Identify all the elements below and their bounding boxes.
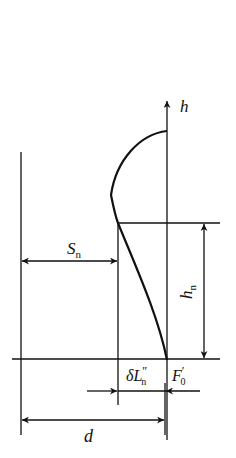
h-n-label: hn (177, 285, 198, 300)
d-label: d (84, 426, 94, 446)
f0-label: F′0 (171, 364, 185, 387)
optics-diagram: h Sn hn δL″n F′0 d (0, 0, 236, 458)
h-axis-label: h (180, 97, 189, 116)
delta-l-label: δL″n (126, 364, 147, 387)
s-n-label: Sn (67, 239, 82, 260)
aberration-curve (111, 131, 167, 360)
svg-text:hn: hn (177, 285, 198, 300)
